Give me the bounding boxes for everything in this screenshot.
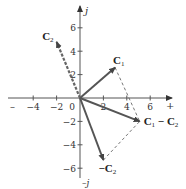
diagram-canvas: −4−20246 642−2−4−6 + – j –j C1C2−C2C1 − … — [0, 0, 186, 189]
x-tick-label: 4 — [124, 102, 130, 112]
x-positive-label: + — [166, 100, 174, 111]
y-tick-label: 6 — [70, 23, 76, 33]
vector-label: C1 — [113, 54, 125, 68]
construction-line — [103, 121, 139, 160]
x-negative-label: – — [10, 101, 15, 112]
y-tick-label: 4 — [70, 47, 76, 57]
vector-label: C2 — [42, 30, 54, 44]
vector-arrow — [80, 68, 115, 98]
vector-c1: C1 — [80, 54, 125, 98]
y-negative-label: –j — [82, 178, 90, 188]
vector-arrow — [80, 98, 140, 121]
vector-label: −C2 — [99, 162, 117, 176]
vector-arrow — [57, 42, 80, 98]
vector-c2: C2 — [42, 30, 80, 98]
y-positive-label: j — [83, 5, 88, 16]
y-tick-label: −4 — [63, 140, 77, 150]
x-tick-label: −4 — [27, 102, 41, 112]
phasor-subtraction-diagram: −4−20246 642−2−4−6 + – j –j C1C2−C2C1 − … — [0, 0, 186, 189]
y-tick-label: −6 — [63, 164, 77, 174]
x-tick-label: 6 — [147, 102, 153, 112]
axes: −4−20246 642−2−4−6 + – j –j — [8, 5, 174, 188]
vector-label: C1 − C2 — [144, 115, 179, 129]
x-tick-label: 0 — [69, 102, 75, 112]
x-tick-label: −2 — [50, 102, 63, 112]
y-tick-label: −2 — [63, 117, 76, 127]
